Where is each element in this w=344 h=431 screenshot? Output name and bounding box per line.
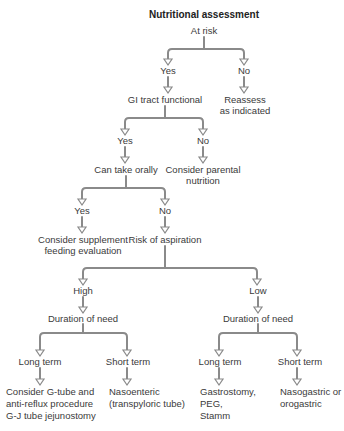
node-high: High: [73, 285, 93, 297]
node-at-risk-no: No: [238, 65, 250, 77]
outcome-high-short-line2: (transpyloric tube): [109, 398, 185, 410]
node-low: Low: [249, 285, 266, 297]
node-can-take-orally: Can take orally: [94, 164, 157, 176]
outcome-high-long-line2: anti-reflux procedure: [6, 398, 93, 410]
node-gi-no: No: [197, 135, 209, 147]
node-gi-yes: Yes: [117, 135, 133, 147]
node-risk-of-aspiration: Risk of aspiration: [129, 234, 202, 246]
node-high-short-term: Short term: [106, 356, 150, 368]
node-duration-low: Duration of need: [223, 313, 293, 325]
outcome-high-long-line1: Consider G-tube and: [6, 386, 94, 398]
node-gi-tract-functional: GI tract functional: [128, 94, 202, 106]
outcome-low-short-line1: Nasogastric or: [280, 386, 341, 398]
outcome-high-long-line3: G-J tube jejunostomy: [6, 410, 96, 422]
node-at-risk: At risk: [191, 25, 217, 37]
outcome-low-short-line2: orogastric: [280, 398, 322, 410]
diagram-title: Nutritional assessment: [149, 9, 259, 21]
node-duration-high: Duration of need: [48, 313, 118, 325]
outcome-low-long-line3: Stamm: [200, 410, 230, 422]
node-oral-no: No: [159, 205, 171, 217]
node-low-long-term: Long term: [199, 356, 242, 368]
node-at-risk-yes: Yes: [160, 65, 176, 77]
node-oral-yes: Yes: [74, 205, 90, 217]
node-low-short-term: Short term: [278, 356, 322, 368]
node-supplement-line2: feeding evaluation: [44, 245, 121, 257]
outcome-high-short-line1: Nasoenteric: [109, 386, 160, 398]
outcome-low-long-line2: PEG,: [200, 398, 223, 410]
node-reassess-line2: as indicated: [220, 105, 271, 117]
outcome-low-long-line1: Gastrostomy,: [200, 386, 256, 398]
node-high-long-term: Long term: [19, 356, 62, 368]
node-parental-line2: nutrition: [186, 175, 220, 187]
